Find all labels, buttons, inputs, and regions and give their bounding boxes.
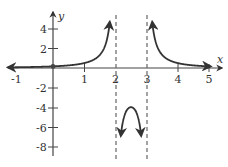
y-tick-label: -8 [36,141,47,154]
x-tick-label: 5 [206,73,213,86]
x-tick-label: 1 [81,73,88,86]
function-graph: -1 1 2 3 4 5 4 2 -2 -4 -6 -8 x y [0,0,228,167]
curve-middle-branch [121,107,141,136]
y-tick-label: -6 [36,122,47,135]
y-tick-label: -4 [36,102,47,115]
y-intercept-point [51,64,56,69]
x-tick-label: 2 [112,73,119,86]
x-axis-label: x [217,53,224,66]
x-tick-label: 3 [144,73,151,86]
curve-right-branch [152,22,210,67]
y-axis-label: y [57,10,65,23]
x-tick-label: -1 [11,73,22,86]
y-tick-label: -2 [36,82,47,95]
curve-left-branch [8,22,110,68]
x-tick-label: 4 [175,73,182,86]
y-tick-label: 2 [40,43,47,56]
y-tick-label: 4 [40,23,47,36]
